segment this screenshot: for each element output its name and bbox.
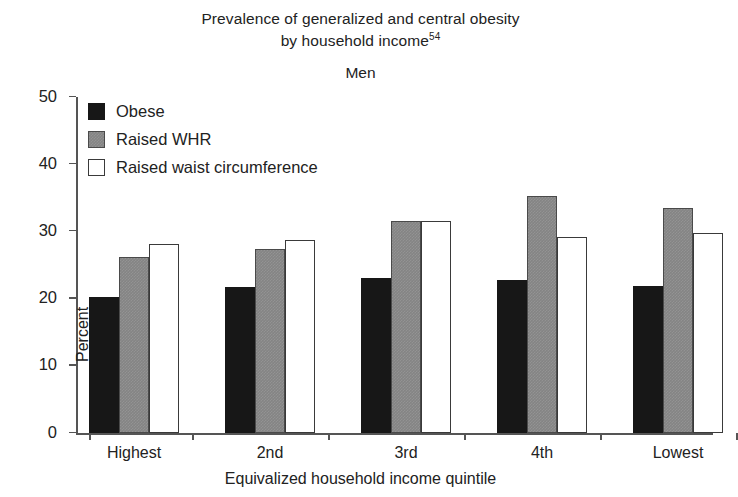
bar	[361, 278, 391, 433]
x-tick	[192, 433, 194, 440]
white-square-swatch	[88, 159, 105, 176]
bar	[391, 221, 421, 433]
bar	[89, 297, 119, 433]
bar	[557, 237, 587, 433]
x-tick-label-3rd: 3rd	[394, 444, 417, 462]
gray-square-swatch	[88, 131, 105, 148]
bar	[225, 287, 255, 433]
legend-item-label: Obese	[116, 102, 165, 121]
chart-title-footnote-marker: 54	[429, 31, 440, 42]
x-tick	[89, 433, 91, 440]
legend-item-label: Raised WHR	[116, 130, 211, 149]
bar-group	[497, 97, 587, 433]
y-tick-label-0: 0	[48, 422, 57, 441]
chart-title-line-2-text: by household income	[281, 32, 429, 49]
x-axis-title: Equivalized household income quintile	[0, 470, 721, 488]
bar	[633, 286, 663, 433]
y-tick-20: 20	[69, 297, 76, 299]
x-axis-line	[76, 433, 713, 435]
y-tick-0: 0	[69, 432, 76, 434]
chart-legend: ObeseRaised WHRRaised waist circumferenc…	[88, 97, 318, 181]
bar	[255, 249, 285, 433]
bar	[693, 233, 723, 433]
y-tick-label-20: 20	[39, 288, 57, 307]
bar	[527, 196, 557, 433]
x-tick-label-highest: Highest	[107, 444, 161, 462]
legend-item-label: Raised waist circumference	[116, 158, 318, 177]
y-tick-40: 40	[69, 163, 76, 165]
x-tick-label-2nd: 2nd	[257, 444, 284, 462]
y-tick-30: 30	[69, 230, 76, 232]
chart-title: Prevalence of generalized and central ob…	[0, 8, 721, 52]
x-tick	[464, 433, 466, 440]
bar	[285, 240, 315, 433]
legend-item: Raised waist circumference	[88, 153, 318, 181]
chart-title-line-1: Prevalence of generalized and central ob…	[0, 8, 721, 30]
y-tick-50: 50	[69, 96, 76, 98]
y-tick-label-40: 40	[39, 153, 57, 172]
x-tick-label-4th: 4th	[531, 444, 553, 462]
y-tick-label-10: 10	[39, 355, 57, 374]
y-tick-label-30: 30	[39, 220, 57, 239]
chart-subtitle: Men	[0, 64, 721, 82]
y-tick-10: 10	[69, 364, 76, 366]
bar	[421, 221, 451, 433]
bar	[119, 257, 149, 433]
bar	[663, 208, 693, 433]
x-tick	[600, 433, 602, 440]
bar	[149, 244, 179, 433]
bar	[497, 280, 527, 433]
x-tick	[736, 433, 738, 440]
y-tick-label-50: 50	[39, 86, 57, 105]
legend-item: Raised WHR	[88, 125, 318, 153]
bar-group	[361, 97, 451, 433]
x-tick-label-lowest: Lowest	[653, 444, 704, 462]
chart-title-line-2: by household income54	[0, 30, 721, 52]
legend-item: Obese	[88, 97, 318, 125]
x-tick	[328, 433, 330, 440]
bar-group	[633, 97, 723, 433]
black-square-swatch	[88, 103, 105, 120]
